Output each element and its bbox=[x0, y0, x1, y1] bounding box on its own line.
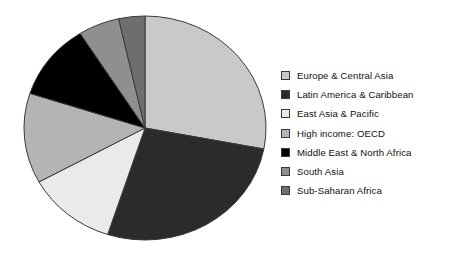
legend-item[interactable]: High income: OECD bbox=[281, 124, 449, 143]
pie-chart-figure: Europe & Central AsiaLatin America & Car… bbox=[0, 0, 452, 255]
pie-slice[interactable] bbox=[145, 16, 266, 149]
legend-swatch-icon bbox=[281, 148, 290, 157]
legend-item-label: South Asia bbox=[297, 166, 344, 177]
legend-item[interactable]: East Asia & Pacific bbox=[281, 104, 449, 123]
legend-swatch-icon bbox=[281, 129, 290, 138]
chart-legend: Europe & Central AsiaLatin America & Car… bbox=[281, 66, 449, 200]
legend-item-label: High income: OECD bbox=[297, 128, 385, 139]
pie-slice-group bbox=[24, 16, 266, 240]
legend-item[interactable]: Latin America & Caribbean bbox=[281, 85, 449, 104]
legend-item-label: Middle East & North Africa bbox=[297, 147, 411, 158]
legend-swatch-icon bbox=[281, 90, 290, 99]
legend-swatch-icon bbox=[281, 109, 290, 118]
legend-item-label: Europe & Central Asia bbox=[297, 70, 393, 81]
legend-swatch-icon bbox=[281, 71, 290, 80]
legend-item[interactable]: Middle East & North Africa bbox=[281, 143, 449, 162]
legend-item-label: East Asia & Pacific bbox=[297, 108, 379, 119]
pie-plot-area bbox=[18, 8, 274, 248]
legend-item[interactable]: Sub-Saharan Africa bbox=[281, 181, 449, 200]
pie-svg bbox=[18, 8, 274, 248]
legend-item[interactable]: Europe & Central Asia bbox=[281, 66, 449, 85]
legend-swatch-icon bbox=[281, 186, 290, 195]
legend-item-label: Sub-Saharan Africa bbox=[297, 185, 382, 196]
legend-item-label: Latin America & Caribbean bbox=[297, 89, 414, 100]
legend-swatch-icon bbox=[281, 167, 290, 176]
legend-item[interactable]: South Asia bbox=[281, 162, 449, 181]
